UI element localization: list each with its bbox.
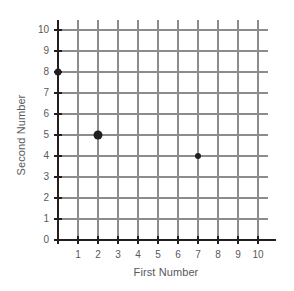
y-tick-label: 4	[29, 151, 49, 161]
y-tick-label: 7	[29, 88, 49, 98]
y-tick-label: 6	[29, 109, 49, 119]
y-tick-label: 10	[29, 25, 49, 35]
y-tick-label: 8	[29, 67, 49, 77]
x-axis-title: First Number	[58, 266, 274, 278]
x-tick-label: 10	[248, 250, 268, 260]
x-tick-label: 2	[88, 250, 108, 260]
x-tick-label: 3	[108, 250, 128, 260]
y-tick-label: 0	[29, 235, 49, 245]
y-tick-label: 9	[29, 46, 49, 56]
tick-marks	[54, 30, 258, 244]
x-tick-label: 1	[68, 250, 88, 260]
x-tick-label: 9	[228, 250, 248, 260]
y-axis-title: Second Number	[14, 15, 28, 255]
data-point	[94, 131, 103, 140]
scatter-plot-figure: 012345678910 12345678910 Second Number F…	[0, 0, 294, 291]
x-tick-label: 7	[188, 250, 208, 260]
gridlines	[58, 20, 268, 240]
x-tick-label: 8	[208, 250, 228, 260]
x-tick-label: 4	[128, 250, 148, 260]
data-point	[55, 69, 62, 76]
axis-lines	[54, 20, 276, 244]
data-point	[195, 153, 201, 159]
y-tick-label: 5	[29, 130, 49, 140]
plot-canvas	[0, 0, 294, 291]
y-tick-label: 1	[29, 214, 49, 224]
y-tick-label: 2	[29, 193, 49, 203]
x-tick-label: 6	[168, 250, 188, 260]
y-tick-label: 3	[29, 172, 49, 182]
x-tick-label: 5	[148, 250, 168, 260]
